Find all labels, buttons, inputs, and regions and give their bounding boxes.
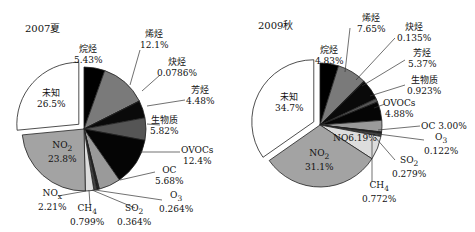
label-no: NO6.19% xyxy=(333,133,377,144)
leader-line xyxy=(356,38,395,80)
label-so2: SO20.279% xyxy=(392,155,426,180)
label-ovocs: OVOCs4.88% xyxy=(383,98,415,120)
label-oc: OC 3.00% xyxy=(421,121,467,132)
leader-line xyxy=(378,126,420,130)
label-ovocs: OVOCs12.4% xyxy=(181,145,213,167)
label-alkane: 烷烃5.43% xyxy=(74,44,103,66)
label-unknown: 未知26.5% xyxy=(37,88,66,110)
label-no2: NO231.1% xyxy=(305,148,334,173)
label-o3: O30.122% xyxy=(424,132,458,157)
label-o3: O30.264% xyxy=(159,190,193,215)
label-unknown: 未知34.7% xyxy=(275,92,304,114)
chart-title-2009-autumn: 2009秋 xyxy=(258,17,293,32)
label-alkyne: 炔烃0.0786% xyxy=(157,57,197,79)
label-aromatic: 芳烃5.37% xyxy=(408,48,437,70)
leader-line xyxy=(147,100,185,106)
chart-title-2007-summer: 2007夏 xyxy=(25,20,60,35)
label-alkene: 烯烃12.1% xyxy=(140,29,169,51)
label-aromatic: 芳烃4.48% xyxy=(186,85,215,107)
label-so2: SO20.364% xyxy=(117,203,151,228)
leader-line xyxy=(130,50,140,85)
leader-line xyxy=(345,28,350,72)
leader-line xyxy=(362,60,405,86)
leader-line xyxy=(95,190,162,200)
leader-line xyxy=(370,85,405,96)
label-nox: NOx2.21% xyxy=(38,188,67,213)
label-biomass: 生物质5.82% xyxy=(150,115,179,137)
label-alkyne: 炔烃0.135% xyxy=(397,22,431,44)
leader-line xyxy=(378,134,424,140)
label-oc: OC5.68% xyxy=(155,165,184,187)
label-biomass: 生物质0.923% xyxy=(407,75,441,97)
label-alkene: 烯烃7.65% xyxy=(357,13,386,35)
label-ch4: CH40.799% xyxy=(70,203,104,228)
label-no2: NO223.8% xyxy=(48,140,77,165)
label-ch4: CH40.772% xyxy=(362,180,396,205)
label-alkane: 烷烃4.83% xyxy=(315,45,344,67)
